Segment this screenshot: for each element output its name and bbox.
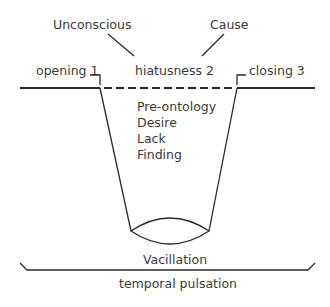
gap-item-pre-ontology: Pre-ontology bbox=[137, 99, 217, 114]
gap-wall-left bbox=[100, 88, 131, 231]
connector-unconscious bbox=[108, 34, 134, 56]
label-hiatusness: hiatusness 2 bbox=[135, 63, 214, 78]
connector-cause bbox=[202, 34, 224, 56]
gap-item-desire: Desire bbox=[137, 115, 177, 130]
closing-bracket bbox=[237, 75, 246, 85]
label-vacillation: Vacillation bbox=[143, 252, 207, 267]
gap-item-lack: Lack bbox=[137, 131, 166, 146]
gap-item-finding: Finding bbox=[137, 147, 182, 162]
label-closing: closing 3 bbox=[249, 63, 305, 78]
label-opening: opening 1 bbox=[36, 63, 98, 78]
label-cause: Cause bbox=[210, 17, 249, 32]
label-temporal-pulsation: temporal pulsation bbox=[119, 276, 237, 291]
temporal-pulsation-diagram: Unconscious Cause opening 1 hiatusness 2… bbox=[0, 0, 330, 307]
label-unconscious: Unconscious bbox=[53, 17, 131, 32]
vacillation-lens bbox=[131, 218, 209, 244]
